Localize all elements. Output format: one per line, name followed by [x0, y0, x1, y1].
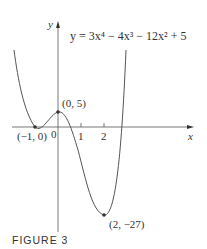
figure-caption: FIGURE 3 [12, 234, 68, 246]
tick-2-label: 2 [101, 130, 107, 142]
equation-label: y = 3x⁴ − 4x³ − 12x² + 5 [70, 29, 186, 44]
x-axis-label: x [188, 130, 193, 142]
point-global-min [102, 213, 106, 217]
tick-1-label: 1 [78, 130, 84, 142]
x-axis-arrow-icon [187, 125, 194, 129]
point-max-label: (0, 5) [62, 97, 86, 109]
point-local-max [56, 110, 60, 114]
y-axis-arrow-icon [56, 21, 60, 28]
tick-0-label: 0 [51, 128, 57, 140]
point-left-min [33, 125, 37, 129]
y-axis-label: y [48, 18, 53, 30]
point-min-label: (2, −27) [109, 218, 145, 230]
point-left-label: (−1, 0) [17, 130, 47, 142]
